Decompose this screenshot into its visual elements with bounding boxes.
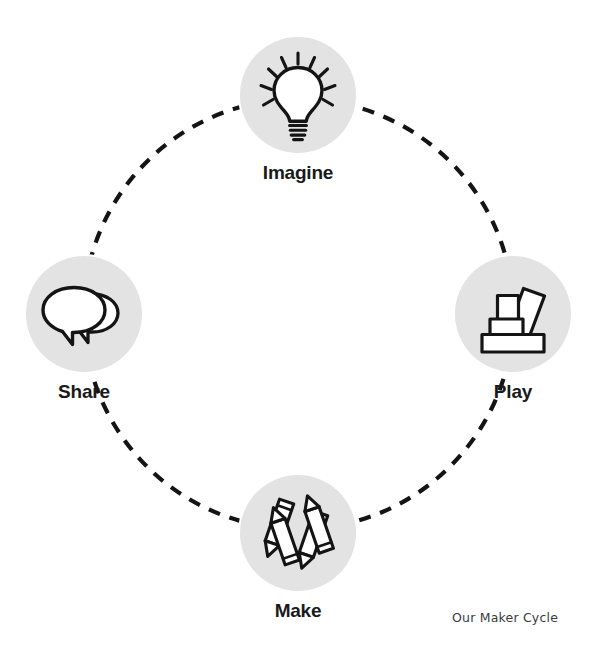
cycle-node-imagine[interactable]: Imagine: [240, 37, 356, 184]
cycle-node-make[interactable]: Make: [240, 475, 356, 622]
diagram-caption: Our Maker Cycle: [452, 610, 558, 626]
cycle-node-share[interactable]: Share: [26, 256, 142, 403]
building-blocks-icon: [455, 256, 571, 372]
share-disc: [26, 256, 142, 372]
play-disc: [455, 256, 571, 372]
cycle-node-label-share: Share: [26, 381, 142, 403]
speech-bubbles-icon: [26, 256, 142, 372]
cycle-node-play[interactable]: Play: [455, 256, 571, 403]
cycle-node-label-play: Play: [455, 381, 571, 403]
cycle-node-label-make: Make: [240, 600, 356, 622]
maker-cycle-diagram: Imagine Play: [0, 0, 593, 662]
make-disc: [240, 475, 356, 591]
crayons-icon: [240, 475, 356, 591]
lightbulb-icon: [240, 37, 356, 153]
imagine-disc: [240, 37, 356, 153]
cycle-node-label-imagine: Imagine: [240, 162, 356, 184]
